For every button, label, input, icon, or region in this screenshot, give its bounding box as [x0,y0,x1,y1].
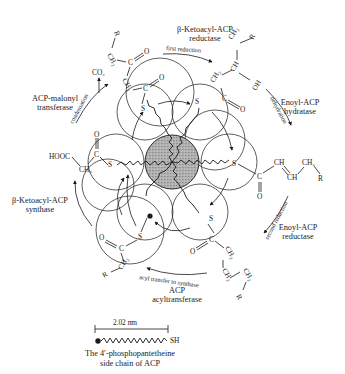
enzyme-circle [96,196,164,264]
svg-text:R: R [234,293,244,302]
svg-text:CH₂: CH₂ [208,68,222,84]
enzyme-circle [172,184,228,240]
svg-text:transferase: transferase [37,103,73,112]
svg-text:CH: CH [287,173,298,182]
svg-text:CH₂: CH₂ [302,158,315,167]
enzyme-circle [201,134,257,190]
enzyme-er-label: Enoyl-ACP reductase [279,223,318,241]
enzyme-at-label: ACP acyltransferase [152,286,202,304]
svg-text:Enoyl-ACP: Enoyl-ACP [279,223,318,232]
legend: 2.02 nm SH The 4′-phosphopantetheine sid… [85,318,180,368]
svg-text:R: R [112,30,122,38]
svg-text:C: C [128,58,133,67]
svg-text:CH₂: CH₂ [220,267,234,283]
phosphate-dot [95,338,100,343]
svg-text:CH₃: CH₃ [79,165,92,174]
enzyme-hd-label: Enoyl-ACP hydratase [281,98,320,116]
thiol-label: SH [170,336,180,345]
enzyme-mt-label: ACP-malonyl transferase [32,94,79,112]
svg-text:O: O [144,47,150,56]
svg-text:reductase: reductase [282,232,314,241]
svg-text:CH₂: CH₂ [105,52,119,68]
sulfur-label: S [108,160,112,169]
svg-text:ACP-malonyl: ACP-malonyl [32,94,79,103]
svg-text:O: O [99,233,105,242]
svg-text:C: C [94,150,99,159]
svg-text:CH₂: CH₂ [223,245,237,261]
svg-text:CH: CH [274,158,285,167]
svg-text:C: C [257,172,262,181]
enzyme-circle [126,58,194,126]
svg-text:O: O [159,73,165,82]
svg-text:ACP: ACP [169,286,186,295]
enzyme-ks-label: β-Ketoacyl-ACP synthase [12,196,68,214]
svg-text:HOOC: HOOC [49,152,70,161]
legend-caption-1: The 4′-phosphopantetheine [85,349,175,358]
malonyl-molecule: HOOC CH₃ C O [49,130,108,174]
svg-text:acyltransferase: acyltransferase [152,295,202,304]
fas-complex-diagram: S S S S S S first reduction dehydration … [0,0,345,374]
sulfur-label: S [195,97,199,106]
svg-text:R: R [101,269,110,279]
co2-label: CO₂ [92,68,105,77]
sulfur-label: S [232,159,236,168]
svg-text:hydratase: hydratase [284,107,316,116]
svg-text:O: O [94,130,100,139]
svg-text:C: C [222,94,227,103]
svg-text:reductase: reductase [189,34,221,43]
legend-caption-2: side chain of ACP [100,359,161,368]
scale-label: 2.02 nm [113,318,137,327]
svg-text:Enoyl-ACP: Enoyl-ACP [281,98,320,107]
svg-text:C: C [143,84,148,93]
acyl-molecule-bottom-left: C O CH₂ R [99,218,147,280]
svg-text:O: O [190,247,196,256]
svg-text:OH: OH [250,78,263,92]
svg-text:β-Ketoacyl-ACP: β-Ketoacyl-ACP [12,196,68,205]
sulfur-label: S [141,104,145,113]
svg-text:CH₂: CH₂ [241,267,255,283]
enzyme-kr-label: β-Ketoacyl-ACP reductase [177,25,233,43]
svg-text:O: O [240,105,246,114]
enzyme-circle [172,84,228,140]
beta-ketoacyl-molecule: R CH₂ C O CH₂ C O [105,30,165,104]
phosphate-dot [147,213,152,218]
enzyme-circle [117,184,173,240]
svg-text:CH₂: CH₂ [120,77,134,93]
svg-text:β-Ketoacyl-ACP: β-Ketoacyl-ACP [177,25,233,34]
sulfur-label: S [138,232,142,241]
step-first-reduction: first reduction [166,44,201,53]
sulfur-label: S [209,214,213,223]
svg-text:synthase: synthase [26,205,55,214]
svg-text:C: C [209,235,214,244]
svg-text:O: O [257,192,263,201]
svg-text:C: C [119,244,124,253]
svg-text:R: R [318,174,323,183]
acyl-molecule-bottom-right: C O CH₂ CH₂ CH₂ R [190,224,256,301]
